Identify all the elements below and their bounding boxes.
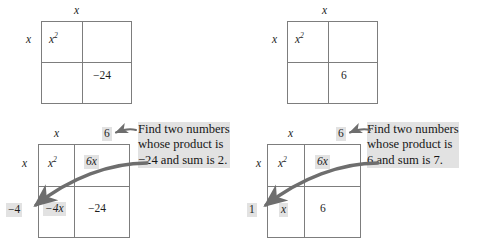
- bottom-right-cell-6x: 6x: [315, 155, 330, 169]
- bottom-left-callout-line3: −24 and sum is 2.: [138, 153, 230, 168]
- bottom-right-callout: Find two numbers whose product is 6 and …: [367, 122, 459, 168]
- bottom-right-callout-line2: whose product is: [367, 137, 459, 152]
- bottom-right-left-label-bottom: 1: [247, 203, 257, 217]
- bottom-left-cell-minus4x: −4x: [43, 202, 66, 216]
- bottom-left-callout-line1: Find two numbers: [138, 122, 230, 137]
- figure-canvas: x x x2 −24 x x x2 6 x 6 x −4 x2 6x −4: [0, 0, 479, 249]
- bottom-right-top-label-left: x: [288, 128, 293, 140]
- top-left-left-label: x: [26, 34, 31, 46]
- bottom-right-left-label-top: x: [256, 158, 261, 170]
- top-left-cell-constant: −24: [93, 70, 111, 82]
- bottom-left-left-label-top: x: [22, 158, 27, 170]
- bottom-right-horizontal-divider: [268, 186, 360, 187]
- bottom-left-callout: Find two numbers whose product is −24 an…: [138, 122, 230, 168]
- bottom-left-top-label-left: x: [54, 128, 59, 140]
- bottom-left-horizontal-divider: [39, 186, 129, 187]
- bottom-right-callout-line1: Find two numbers: [367, 122, 459, 137]
- bottom-left-callout-line2: whose product is: [138, 137, 230, 152]
- bottom-left-vertical-divider: [74, 145, 75, 237]
- bottom-right-cell-x: x: [279, 203, 288, 217]
- bottom-right-cell-x-squared: x2: [278, 156, 287, 169]
- top-left-top-label: x: [74, 5, 79, 17]
- top-right-horizontal-divider: [288, 62, 377, 63]
- top-right-cell-x-squared: x2: [295, 32, 304, 45]
- bottom-right-callout-line3: 6 and sum is 7.: [367, 153, 459, 168]
- bottom-left-cell-minus24: −24: [88, 203, 106, 215]
- bottom-left-cell-6x: 6x: [84, 155, 99, 169]
- bottom-right-vertical-divider: [304, 145, 305, 237]
- top-right-cell-constant: 6: [341, 70, 347, 82]
- top-right-left-label: x: [272, 34, 277, 46]
- arrow-to-top-label-left: [116, 129, 136, 132]
- top-left-cell-x-squared: x2: [49, 32, 58, 45]
- bottom-right-top-label-right: 6: [336, 127, 346, 141]
- bottom-left-top-label-right: 6: [102, 127, 112, 141]
- bottom-right-cell-six: 6: [320, 203, 326, 215]
- bottom-left-left-label-bottom: −4: [6, 203, 22, 217]
- top-right-top-label: x: [322, 5, 327, 17]
- top-left-horizontal-divider: [42, 62, 131, 63]
- bottom-left-cell-x-squared: x2: [48, 156, 57, 169]
